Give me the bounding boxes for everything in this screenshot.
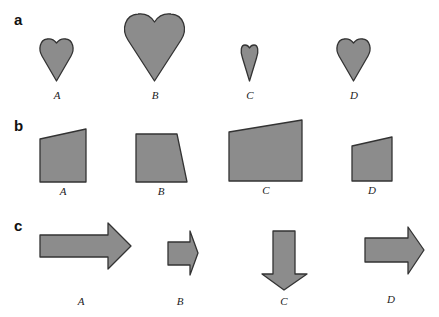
panel-c-shapes [40, 223, 424, 290]
arrow-d-shape [365, 227, 424, 274]
arrow-c-shape [262, 231, 307, 290]
heart-c-label: C [246, 89, 253, 101]
arrow-c-label: C [280, 295, 287, 307]
quad-d-shape [352, 137, 392, 181]
quad-a-shape [40, 129, 86, 182]
heart-a-shape [40, 39, 73, 81]
arrow-b-shape [168, 231, 198, 275]
arrow-b-label: B [177, 295, 184, 307]
heart-d-shape [337, 39, 370, 81]
quad-d-label: D [368, 184, 376, 196]
panel-label-c: c [14, 217, 22, 234]
heart-a-label: A [54, 89, 61, 101]
panel-a-shapes [40, 14, 370, 81]
heart-c-shape [241, 45, 258, 81]
panel-label-b: b [14, 117, 23, 134]
panel-b-shapes [40, 120, 392, 182]
quad-b-label: B [158, 185, 165, 197]
heart-b-label: B [152, 89, 159, 101]
quad-a-label: A [60, 185, 67, 197]
quad-c-shape [229, 120, 302, 181]
heart-b-shape [125, 14, 185, 81]
heart-d-label: D [350, 89, 358, 101]
figure-shapes [0, 0, 439, 317]
arrow-d-label: D [387, 293, 395, 305]
shape-similarity-figure: a b c A B C D A B C D A B C D [0, 0, 439, 317]
quad-b-shape [136, 134, 187, 182]
arrow-a-label: A [78, 295, 85, 307]
arrow-a-shape [40, 223, 131, 269]
quad-c-label: C [262, 184, 269, 196]
panel-label-a: a [14, 11, 22, 28]
